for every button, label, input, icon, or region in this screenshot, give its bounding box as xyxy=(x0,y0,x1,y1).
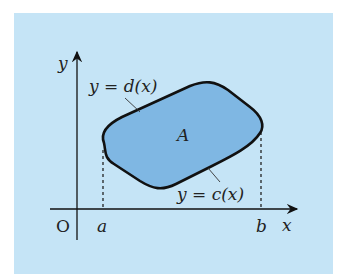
a-label: a xyxy=(97,216,107,236)
lower-curve-label: y = c(x) xyxy=(176,184,244,204)
region-diagram: y x O a b A y = d(x) y = c(x) xyxy=(0,0,351,278)
y-axis-label: y xyxy=(57,53,68,73)
leader-line-c xyxy=(208,168,220,182)
region-label: A xyxy=(175,125,189,145)
origin-label: O xyxy=(56,216,70,236)
leader-line-d xyxy=(125,98,140,112)
x-axis-label: x xyxy=(282,215,292,235)
upper-curve-label: y = d(x) xyxy=(88,76,157,96)
b-label: b xyxy=(256,216,267,236)
